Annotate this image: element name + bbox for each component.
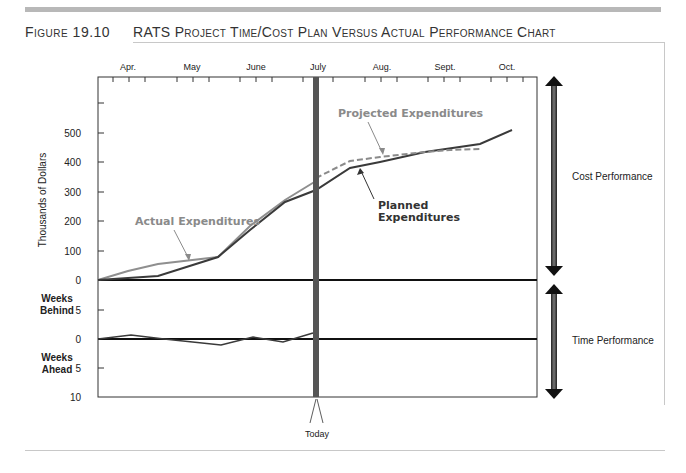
cost-tick-100: 100 xyxy=(64,246,81,257)
x-axis-labels: Apr. May June July Aug. Sept. Oct. xyxy=(120,62,515,72)
weeks-ahead-label: Weeks Ahead xyxy=(41,352,73,375)
month-label-oct: Oct. xyxy=(499,62,516,72)
svg-text:Behind: Behind xyxy=(40,305,74,316)
actual-expenditures-line xyxy=(98,181,316,280)
cost-performance-label: Cost Performance xyxy=(572,171,653,182)
weeks-behind-label: Weeks Behind xyxy=(40,293,74,316)
projected-expenditures-annotation: Projected Expenditures xyxy=(338,107,484,120)
cost-performance-arrow-icon xyxy=(545,76,563,276)
month-label-june: June xyxy=(246,62,266,72)
time-performance-label: Time Performance xyxy=(572,335,654,346)
performance-chart: Apr. May June July Aug. Sept. Oct. 0 100… xyxy=(0,0,686,473)
cost-tick-500: 500 xyxy=(64,128,81,139)
planned-annotation-arrowhead xyxy=(357,168,364,175)
cost-tick-400: 400 xyxy=(64,157,81,168)
today-label: Today xyxy=(305,429,330,439)
cost-axis-labels: 0 100 200 300 400 500 xyxy=(64,128,81,286)
month-label-july: July xyxy=(310,62,327,72)
planned-annotation-pointer xyxy=(361,171,374,199)
svg-text:Ahead: Ahead xyxy=(42,364,73,375)
actual-expenditures-annotation: Actual Expenditures xyxy=(135,215,261,228)
time-tick-0: 0 xyxy=(75,334,81,345)
time-tick-ahead-10: 10 xyxy=(70,392,82,403)
month-label-sept: Sept. xyxy=(434,62,455,72)
cost-tick-0: 0 xyxy=(75,275,81,286)
today-pointer-left xyxy=(310,399,316,423)
cost-tick-300: 300 xyxy=(64,187,81,198)
projected-annotation-pointer xyxy=(368,122,382,152)
today-pointer-right xyxy=(317,399,323,423)
month-label-apr: Apr. xyxy=(120,62,136,72)
planned-expenditures-annotation-line2: Expenditures xyxy=(378,211,460,224)
time-tick-behind-5: 5 xyxy=(75,305,81,316)
time-tick-ahead-5: 5 xyxy=(75,363,81,374)
y-axis-ticks xyxy=(98,103,104,368)
time-performance-arrow-icon xyxy=(545,284,563,399)
month-label-may: May xyxy=(183,62,201,72)
cost-tick-200: 200 xyxy=(64,216,81,227)
svg-text:Weeks: Weeks xyxy=(41,352,73,363)
month-label-aug: Aug. xyxy=(373,62,392,72)
y-axis-title: Thousands of Dollars xyxy=(37,153,48,248)
projected-annotation-arrowhead xyxy=(379,148,385,155)
planned-expenditures-line xyxy=(98,130,512,280)
today-marker xyxy=(313,77,319,397)
svg-text:Weeks: Weeks xyxy=(41,293,73,304)
